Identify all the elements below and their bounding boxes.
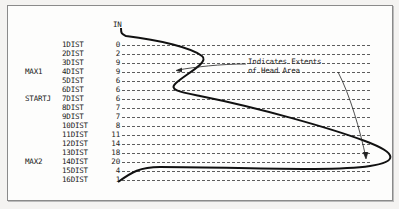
profile-curve [0,0,399,209]
